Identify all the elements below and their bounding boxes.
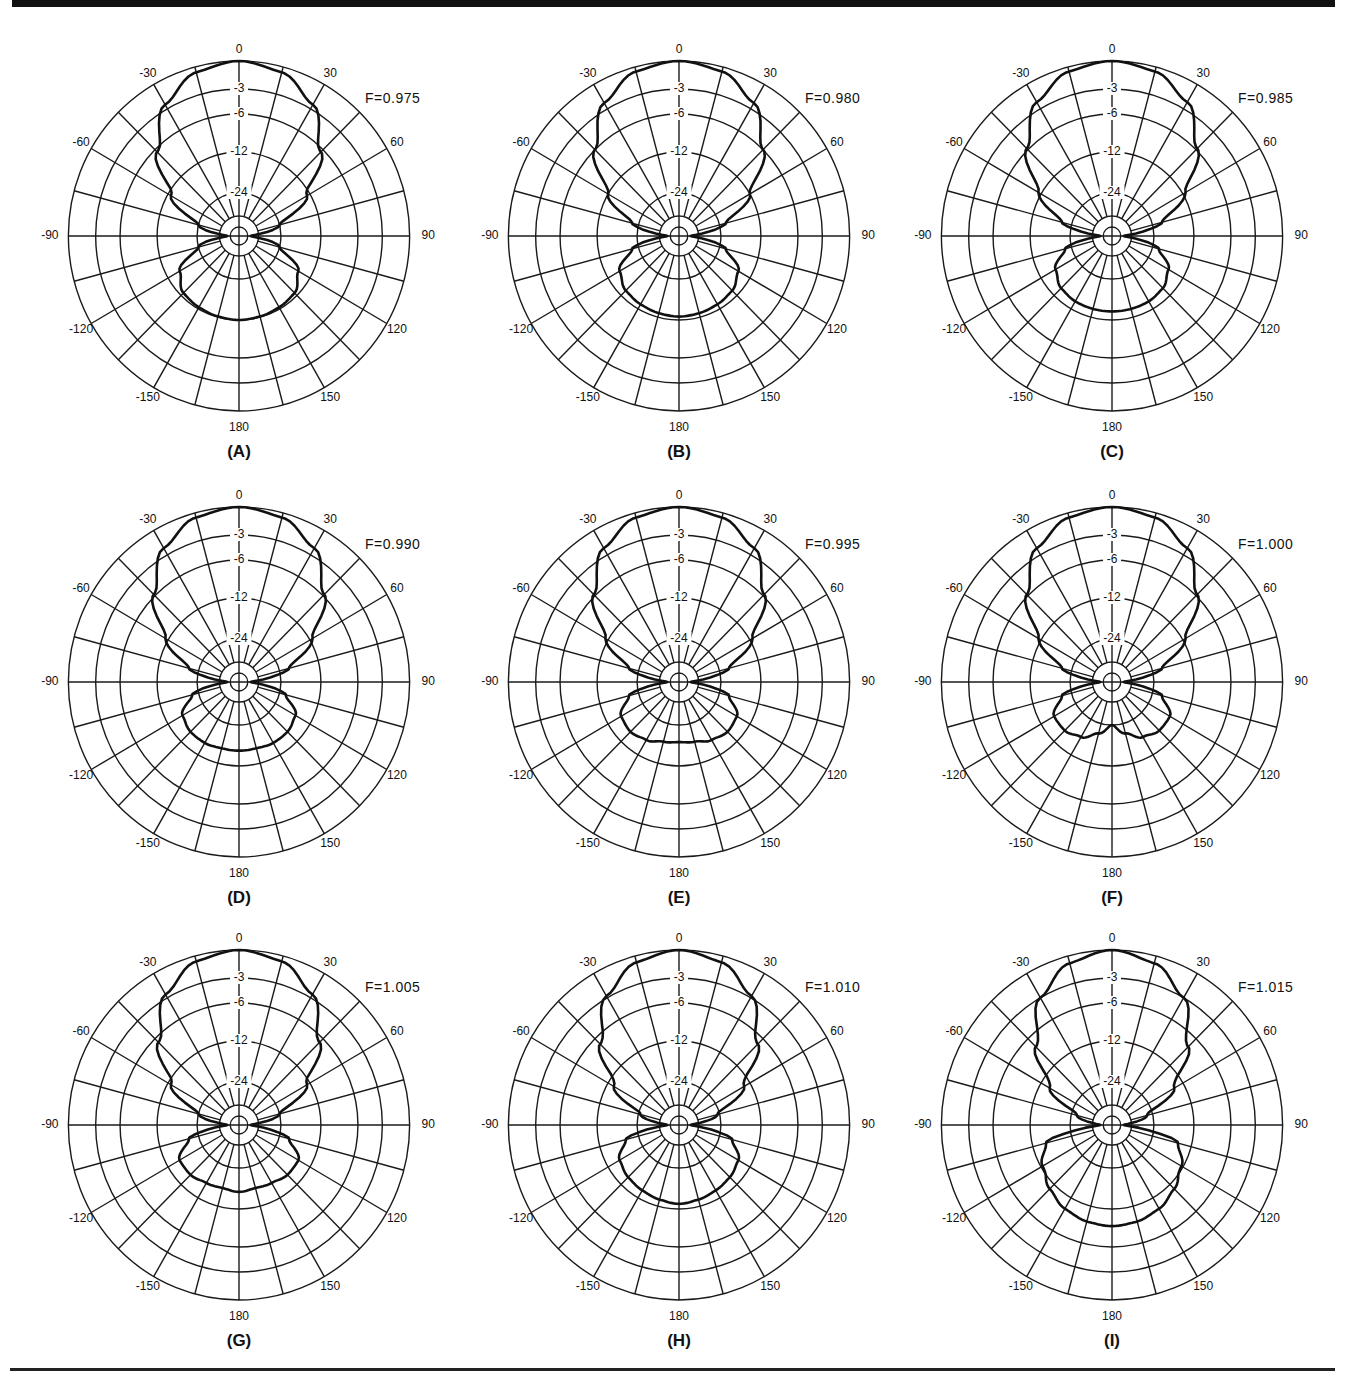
angle-tick-label: 120 (827, 322, 847, 336)
grid-spoke (1126, 696, 1233, 806)
angle-tick-label: -120 (942, 322, 966, 336)
angle-tick-label: 60 (830, 135, 844, 149)
angle-tick-label: -60 (945, 1024, 963, 1038)
radial-tick-label: -12 (670, 1033, 688, 1047)
angle-tick-label: -150 (136, 1279, 160, 1293)
radial-tick-label: -24 (230, 185, 248, 199)
angle-tick-label: -120 (69, 768, 93, 782)
angle-tick-label: 120 (387, 768, 407, 782)
angle-tick-label: 0 (1109, 488, 1116, 502)
angle-tick-label: -60 (72, 1024, 90, 1038)
angle-tick-label: -90 (914, 228, 932, 242)
angle-tick-label: -120 (509, 322, 533, 336)
radial-tick-label: -12 (230, 1033, 248, 1047)
angle-tick-label: 90 (1294, 1117, 1308, 1131)
angle-tick-label: -60 (72, 135, 90, 149)
angle-tick-label: -150 (576, 390, 600, 404)
angle-tick-label: 150 (760, 836, 780, 850)
angle-tick-label: -60 (72, 581, 90, 595)
angle-tick-label: 180 (1102, 866, 1122, 880)
angle-tick-label: 150 (760, 1279, 780, 1293)
angle-tick-label: 0 (236, 488, 243, 502)
angle-tick-label: 60 (1263, 581, 1277, 595)
angle-tick-label: -60 (512, 1024, 530, 1038)
radial-tick-label: -12 (230, 144, 248, 158)
angle-tick-label: -120 (509, 1211, 533, 1225)
angle-tick-label: -30 (1012, 66, 1030, 80)
radial-tick-label: -6 (674, 995, 685, 1009)
grid-spoke (118, 1001, 225, 1111)
angle-tick-label: 90 (1294, 228, 1308, 242)
frequency-ratio-label: F=1.015 (1238, 979, 1293, 995)
panel-label: (A) (227, 442, 251, 461)
angle-tick-label: 150 (760, 390, 780, 404)
grid-spoke (253, 112, 360, 222)
angle-tick-label: 90 (861, 1117, 875, 1131)
grid-spoke (253, 696, 360, 806)
angle-tick-label: -90 (914, 1117, 932, 1131)
angle-tick-label: 120 (827, 768, 847, 782)
angle-tick-label: 30 (1196, 66, 1210, 80)
angle-tick-label: -120 (942, 768, 966, 782)
angle-tick-label: 150 (1193, 390, 1213, 404)
frequency-ratio-label: F=1.000 (1238, 536, 1293, 552)
angle-tick-label: 0 (676, 488, 683, 502)
radial-tick-label: -24 (230, 631, 248, 645)
grid-spoke (693, 112, 800, 222)
radial-tick-label: -6 (674, 106, 685, 120)
grid-spoke (693, 250, 800, 360)
angle-tick-label: -90 (481, 228, 499, 242)
angle-tick-label: 0 (676, 931, 683, 945)
angle-tick-label: 90 (861, 228, 875, 242)
angle-tick-label: 150 (1193, 836, 1213, 850)
radial-tick-label: -6 (1107, 995, 1118, 1009)
angle-tick-label: -150 (576, 1279, 600, 1293)
polar-chart-d: -3-6-12-240306090120150180-150-120-90-60… (41, 488, 435, 907)
radial-tick-label: -3 (1107, 81, 1118, 95)
angle-tick-label: 30 (1196, 955, 1210, 969)
angle-tick-label: -90 (481, 1117, 499, 1131)
angle-tick-label: 120 (387, 322, 407, 336)
angle-tick-label: 150 (320, 1279, 340, 1293)
radial-tick-label: -6 (674, 552, 685, 566)
angle-tick-label: 60 (1263, 135, 1277, 149)
radial-tick-label: -6 (234, 106, 245, 120)
angle-tick-label: -120 (69, 1211, 93, 1225)
frequency-ratio-label: F=0.980 (805, 90, 860, 106)
angle-tick-label: -30 (579, 955, 597, 969)
grid-spoke (118, 696, 225, 806)
panel-label: (F) (1101, 888, 1123, 907)
angle-tick-label: 0 (236, 42, 243, 56)
radial-tick-label: -12 (1103, 144, 1121, 158)
angle-tick-label: 30 (323, 512, 337, 526)
angle-tick-label: 60 (830, 581, 844, 595)
radial-tick-label: -6 (1107, 106, 1118, 120)
angle-tick-label: -90 (914, 674, 932, 688)
angle-tick-label: 150 (320, 390, 340, 404)
grid-spoke (991, 1001, 1098, 1111)
angle-tick-label: -60 (512, 581, 530, 595)
polar-chart-h: -3-6-12-240306090120150180-150-120-90-60… (481, 931, 875, 1350)
angle-tick-label: 60 (390, 581, 404, 595)
angle-tick-label: 60 (390, 135, 404, 149)
frequency-ratio-label: F=0.985 (1238, 90, 1293, 106)
radial-tick-label: -3 (234, 527, 245, 541)
frequency-ratio-label: F=0.990 (365, 536, 420, 552)
grid-spoke (991, 696, 1098, 806)
grid-spoke (118, 250, 225, 360)
radial-tick-label: -24 (670, 631, 688, 645)
angle-tick-label: 90 (1294, 674, 1308, 688)
angle-tick-label: 30 (763, 512, 777, 526)
radial-tick-label: -24 (670, 185, 688, 199)
angle-tick-label: -30 (139, 955, 157, 969)
angle-tick-label: 150 (320, 836, 340, 850)
grid-spoke (558, 1001, 665, 1111)
radial-tick-label: -6 (234, 995, 245, 1009)
angle-tick-label: -30 (579, 66, 597, 80)
polar-chart-i: -3-6-12-240306090120150180-150-120-90-60… (914, 931, 1308, 1350)
panel-label: (H) (667, 1331, 691, 1350)
frequency-ratio-label: F=1.005 (365, 979, 420, 995)
angle-tick-label: 180 (669, 420, 689, 434)
radial-tick-label: -24 (670, 1074, 688, 1088)
grid-spoke (253, 250, 360, 360)
